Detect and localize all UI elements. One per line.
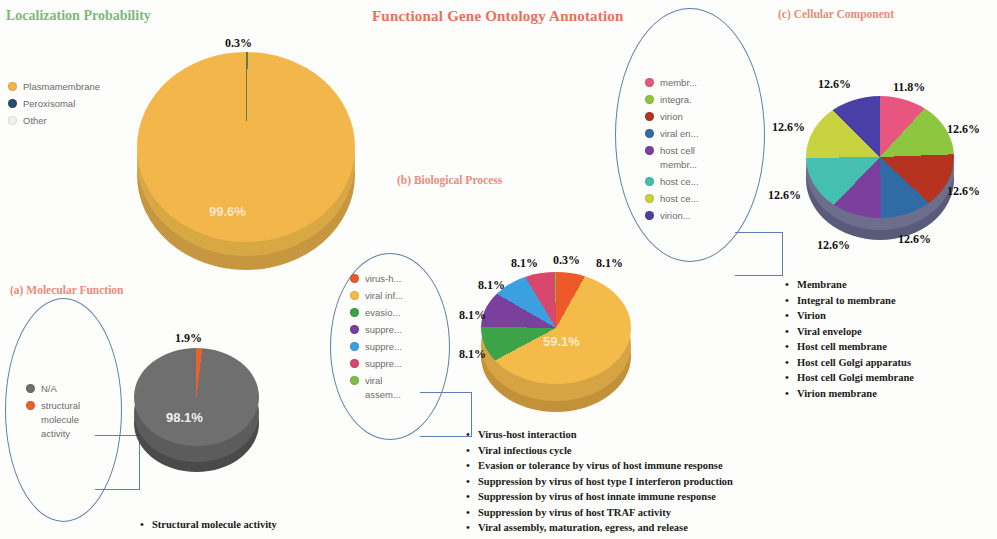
molecular-function-slice-label-main: 98.1% — [166, 410, 203, 425]
cellular-component-pie-chart — [806, 96, 954, 244]
legend-label: Plasmamembrane — [23, 80, 100, 94]
localization-legend-item: Peroxisomal — [8, 97, 148, 111]
biological-process-legend-item: viral assem... — [350, 374, 430, 402]
legend-label: N/A — [41, 382, 57, 396]
cc-label-left-lower: 12.6% — [768, 188, 801, 203]
legend-label: Other — [23, 114, 47, 128]
bullet-label: Membrane — [797, 279, 847, 290]
cellular-component-term-item: •Membrane — [785, 278, 914, 290]
bullet-icon: • — [466, 521, 478, 533]
biological-process-legend-item: suppre... — [350, 340, 430, 354]
panel-c-title: (c) Cellular Component — [778, 8, 894, 20]
molecular-function-term-list: •Structural molecule activity — [140, 518, 277, 534]
cellular-component-legend: membr...integra.virionviral en...host ce… — [645, 76, 735, 226]
bullet-icon: • — [785, 294, 797, 306]
biological-process-term-item: •Viral infectious cycle — [466, 444, 733, 456]
legend-swatch-icon — [8, 116, 17, 125]
biological-process-slice-label-main: 59.1% — [543, 334, 580, 349]
biological-process-legend: virus-h...viral inf...evasio...suppre...… — [350, 272, 430, 405]
cellular-component-legend-item: integra. — [645, 93, 735, 107]
cc-label-bottom-left: 12.6% — [817, 238, 850, 253]
legend-label: suppre... — [365, 323, 402, 337]
molecular-function-legend-item: structural molecule activity — [26, 399, 112, 441]
bullet-icon: • — [466, 444, 478, 456]
cellular-component-term-item: •Integral to membrane — [785, 294, 914, 306]
legend-label: virion... — [660, 209, 691, 223]
legend-label: host ce... — [660, 175, 699, 189]
bullet-icon: • — [466, 490, 478, 502]
legend-swatch-icon — [645, 177, 654, 186]
cellular-component-term-item: •Virion — [785, 309, 914, 321]
bullet-label: Viral envelope — [797, 326, 862, 337]
localization-legend-item: Other — [8, 114, 148, 128]
bp-label-left-lower: 8.1% — [459, 347, 486, 362]
biological-process-pie-chart: 59.1% — [481, 272, 631, 412]
localization-legend: PlasmamembranePeroxisomalOther — [8, 80, 148, 131]
legend-label: host cell membr... — [660, 144, 697, 172]
cellular-component-legend-item: viral en... — [645, 127, 735, 141]
cellular-component-legend-item: host ce... — [645, 175, 735, 189]
cellular-component-term-item: •Virion membrane — [785, 387, 914, 399]
cc-label-right-lower: 12.6% — [947, 184, 980, 199]
cc-label-left-upper: 12.6% — [772, 120, 805, 135]
bullet-icon: • — [785, 340, 797, 352]
cellular-component-term-item: •Viral envelope — [785, 325, 914, 337]
bullet-icon: • — [785, 325, 797, 337]
bullet-icon: • — [466, 475, 478, 487]
legend-label: integra. — [660, 93, 692, 107]
legend-swatch-icon — [645, 78, 654, 87]
bullet-icon: • — [785, 278, 797, 290]
cellular-component-term-item: •Host cell Golgi apparatus — [785, 356, 914, 368]
bullet-label: Host cell Golgi membrane — [797, 372, 914, 383]
biological-process-term-item: •Viral assembly, maturation, egress, and… — [466, 521, 733, 533]
legend-swatch-icon — [350, 342, 359, 351]
cellular-component-legend-item: membr... — [645, 76, 735, 90]
legend-swatch-icon — [645, 95, 654, 104]
bullet-icon: • — [466, 459, 478, 471]
bullet-label: Structural molecule activity — [152, 519, 277, 530]
legend-swatch-icon — [645, 129, 654, 138]
bullet-label: Viral assembly, maturation, egress, and … — [478, 522, 688, 533]
legend-swatch-icon — [350, 308, 359, 317]
biological-process-term-item: •Suppression by virus of host innate imm… — [466, 490, 733, 502]
legend-swatch-icon — [350, 291, 359, 300]
biological-process-legend-item: suppre... — [350, 323, 430, 337]
bullet-label: Suppression by virus of host TRAF activi… — [478, 507, 671, 518]
bullet-label: Virus-host interaction — [478, 429, 576, 440]
cc-label-right-upper: 12.6% — [947, 122, 980, 137]
legend-label: Peroxisomal — [23, 97, 75, 111]
biological-process-term-list: •Virus-host interaction•Viral infectious… — [466, 428, 733, 537]
cc-label-bottom-right: 12.6% — [898, 232, 931, 247]
localization-pie-chart: 99.6% — [137, 52, 355, 270]
legend-swatch-icon — [26, 384, 35, 393]
bp-label-left-upper: 8.1% — [478, 278, 505, 293]
cellular-component-term-list: •Membrane•Integral to membrane•Virion•Vi… — [785, 278, 914, 402]
bullet-icon: • — [785, 387, 797, 399]
legend-swatch-icon — [350, 376, 359, 385]
bullet-label: Evasion or tolerance by virus of host im… — [478, 460, 723, 471]
biological-process-term-item: •Virus-host interaction — [466, 428, 733, 440]
molecular-function-legend-item: N/A — [26, 382, 112, 396]
figure-main-title: Functional Gene Ontology Annotation — [372, 8, 624, 25]
legend-swatch-icon — [26, 401, 35, 410]
legend-swatch-icon — [8, 82, 17, 91]
legend-swatch-icon — [645, 112, 654, 121]
legend-label: evasio... — [365, 306, 400, 320]
legend-label: membr... — [660, 76, 697, 90]
bullet-label: Host cell Golgi apparatus — [797, 357, 911, 368]
legend-label: structural molecule activity — [41, 399, 80, 441]
legend-swatch-icon — [350, 359, 359, 368]
legend-label: suppre... — [365, 340, 402, 354]
molecular-function-legend: N/Astructural molecule activity — [26, 382, 112, 444]
bullet-icon: • — [785, 309, 797, 321]
localization-legend-item: Plasmamembrane — [8, 80, 148, 94]
bullet-label: Virion membrane — [797, 388, 877, 399]
bullet-icon: • — [785, 356, 797, 368]
bullet-icon: • — [466, 506, 478, 518]
legend-label: viral en... — [660, 127, 699, 141]
cellular-component-legend-item: virion... — [645, 209, 735, 223]
legend-label: viral inf... — [365, 289, 403, 303]
biological-process-term-item: •Suppression by virus of host TRAF activ… — [466, 506, 733, 518]
cc-label-top-left: 12.6% — [818, 77, 851, 92]
molecular-function-term-item: •Structural molecule activity — [140, 518, 277, 530]
